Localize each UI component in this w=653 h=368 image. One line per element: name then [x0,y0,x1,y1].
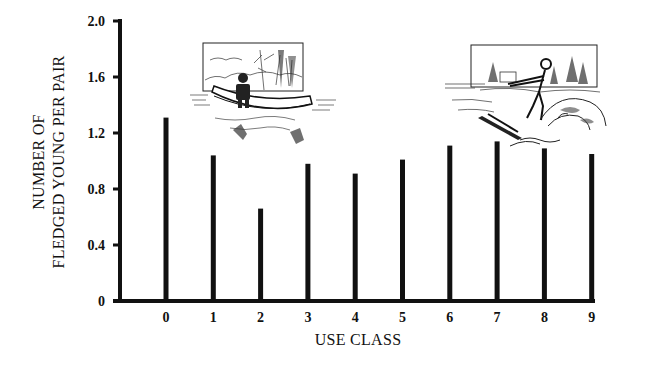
x-tick-label: 7 [494,310,501,325]
x-axis-title: USE CLASS [315,331,402,348]
y-tick-label: 2.0 [88,14,106,29]
y-axis-title: NUMBER OF FLEDGED YOUNG PER PAIR [30,55,67,268]
x-tick-label: 6 [446,310,453,325]
x-tick-label: 4 [352,310,359,325]
y-axis-title-line-2: FLEDGED YOUNG PER PAIR [50,55,67,268]
bar-class-0 [164,118,169,301]
bar-class-4 [353,174,358,301]
x-axis: 0123456789 [113,301,595,325]
y-tick-label: 1.2 [88,126,106,141]
bar-class-7 [495,141,500,301]
y-tick-label: 1.6 [88,70,106,85]
x-tick-label: 3 [304,310,311,325]
bars [164,118,595,301]
y-tick-label: 0 [98,294,105,309]
x-tick-label: 1 [210,310,217,325]
x-tick-label: 5 [399,310,406,325]
bar-class-9 [589,154,594,301]
bar-class-6 [447,146,452,301]
y-tick-label: 0.8 [88,182,106,197]
canoe-fishing-illustration [190,43,336,144]
x-tick-label: 2 [257,310,264,325]
bar-class-1 [211,155,216,301]
bar-class-8 [542,148,547,301]
bar-class-2 [258,209,263,301]
x-tick-label: 0 [163,310,170,325]
y-axis-title-line-1: NUMBER OF [30,114,47,210]
bar-class-3 [305,164,310,301]
y-tick-label: 0.4 [88,238,106,253]
x-tick-label: 9 [588,310,595,325]
x-tick-label: 8 [541,310,548,325]
bar-class-5 [400,160,405,301]
bar-chart: 00.40.81.21.62.0 0123456789 USE CLASS NU… [0,0,653,368]
y-axis: 00.40.81.21.62.0 [88,14,121,309]
water-skier-illustration [445,45,606,146]
